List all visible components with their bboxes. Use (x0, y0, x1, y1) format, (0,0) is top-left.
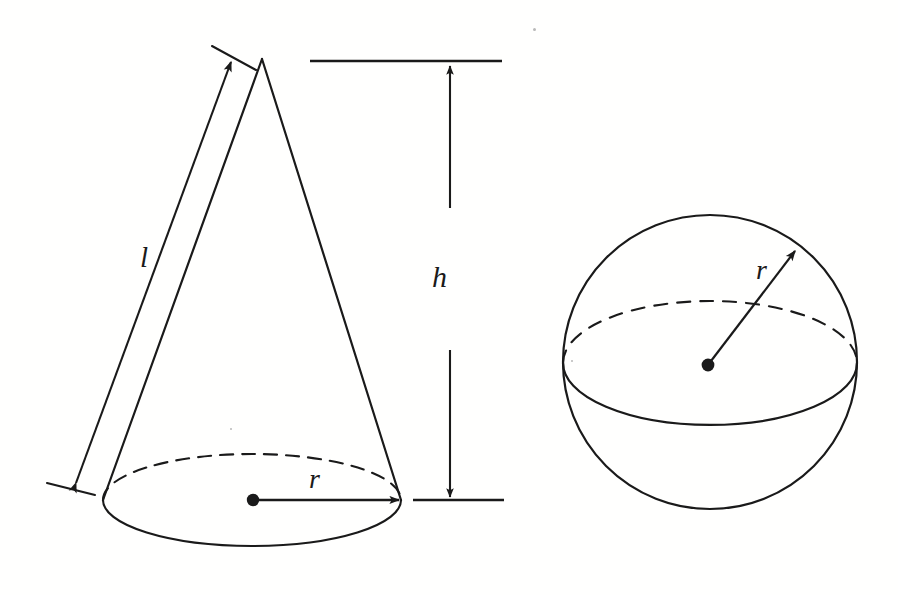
slant-height-dimension (47, 46, 256, 495)
sphere-radius-label: r (756, 256, 767, 284)
sphere-equator-hidden-arc (563, 301, 857, 363)
sphere-radius-arrow (711, 251, 795, 361)
slant-extension-tick-bottom (47, 483, 95, 495)
scan-speck (230, 428, 232, 430)
height-dimension (310, 61, 504, 500)
sphere-group (563, 215, 857, 509)
cone-group (103, 59, 401, 546)
slant-height-arrow (76, 62, 231, 483)
scan-speck (533, 28, 536, 31)
cone-left-edge (103, 59, 262, 500)
cone-base-visible-arc (103, 500, 401, 546)
cone-sphere-diagram (0, 0, 898, 595)
cone-base-hidden-arc (103, 454, 401, 500)
height-label: h (432, 262, 447, 292)
sphere-equator-visible-arc (563, 363, 857, 425)
cone-right-edge (262, 59, 401, 500)
cone-radius-label: r (309, 465, 320, 493)
slant-extension-tick-top (212, 46, 256, 70)
figure-canvas: l h r r (0, 0, 898, 595)
slant-height-label: l (140, 243, 148, 272)
scan-speck (571, 360, 573, 362)
